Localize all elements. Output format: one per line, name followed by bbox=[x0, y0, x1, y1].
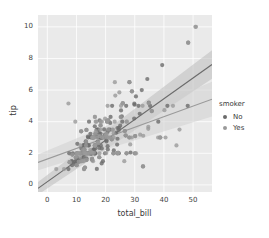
legend-title: smoker bbox=[219, 100, 267, 108]
plot-panel bbox=[38, 15, 212, 192]
legend-entries: NoYes bbox=[219, 111, 267, 133]
x-tick-label: 0 bbox=[37, 197, 57, 204]
scatter-point-layer bbox=[38, 15, 212, 192]
legend-marker-icon bbox=[223, 115, 227, 119]
x-axis-label: total_bill bbox=[0, 209, 269, 218]
legend-item-no[interactable]: No bbox=[219, 111, 267, 122]
y-tick-label: 10 bbox=[10, 23, 33, 30]
legend-item-label: No bbox=[233, 113, 243, 121]
y-axis-label-text: tip bbox=[9, 105, 18, 115]
x-tick-label: 30 bbox=[125, 197, 145, 204]
legend-item-yes[interactable]: Yes bbox=[219, 122, 267, 133]
x-tick-label: 50 bbox=[183, 197, 203, 204]
y-tick-label: 6 bbox=[10, 87, 33, 94]
y-tick-label: 4 bbox=[10, 118, 33, 125]
legend-marker-icon bbox=[223, 126, 227, 130]
legend: smoker NoYes bbox=[219, 100, 267, 133]
y-tick-label: 8 bbox=[10, 55, 33, 62]
legend-item-label: Yes bbox=[233, 124, 244, 132]
figure: 0246810 01020304050 tip total_bill smoke… bbox=[0, 0, 269, 238]
y-tick-label: 0 bbox=[10, 181, 33, 188]
x-tick-label: 20 bbox=[96, 197, 116, 204]
x-tick-label: 10 bbox=[66, 197, 86, 204]
y-axis-label: tip bbox=[3, 98, 23, 117]
y-tick-label: 2 bbox=[10, 150, 33, 157]
x-tick-label: 40 bbox=[154, 197, 174, 204]
